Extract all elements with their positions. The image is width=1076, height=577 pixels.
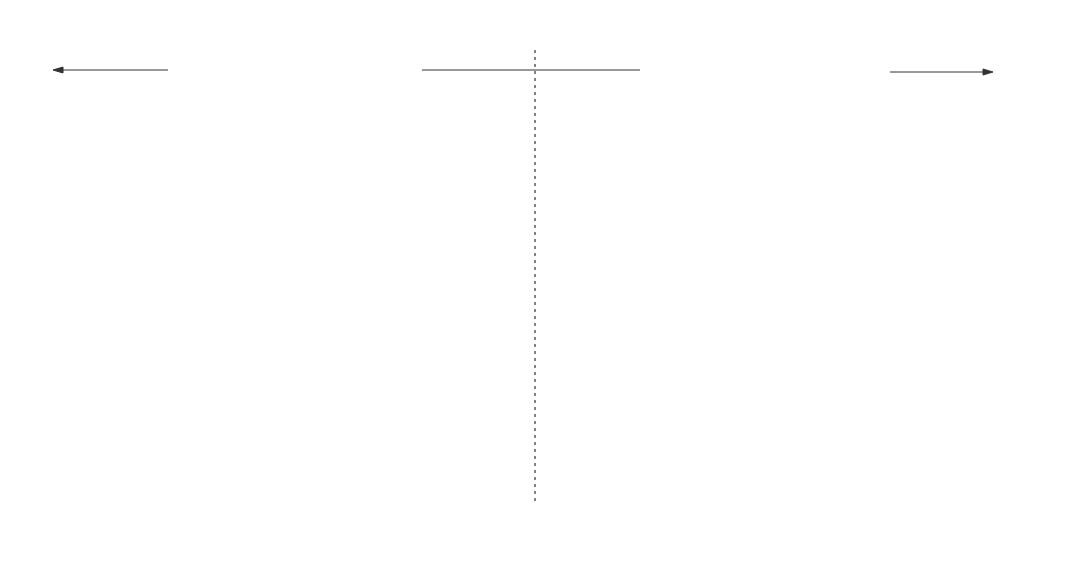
utm-zone-diagram [0,0,1076,577]
direction-arrows [53,67,993,75]
